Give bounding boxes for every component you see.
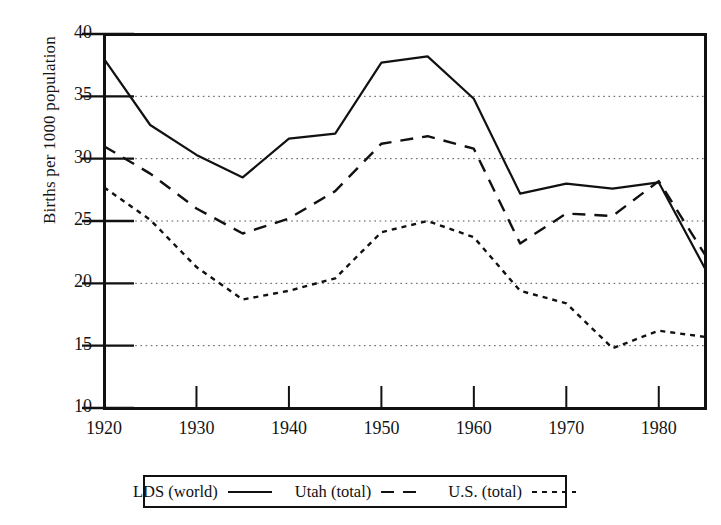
legend-label: LDS (world) <box>133 482 218 502</box>
plot-frame <box>105 35 706 409</box>
legend-entry: LDS (world) <box>122 482 284 502</box>
x-tick-label: 1940 <box>254 418 324 439</box>
legend-swatch-dotted <box>531 487 577 497</box>
y-tick-label: 35 <box>46 84 92 105</box>
y-tick-label: 20 <box>46 271 92 292</box>
series-line-u-s-total <box>104 187 705 348</box>
y-tick-label: 30 <box>46 147 92 168</box>
plot-area <box>0 0 721 525</box>
legend-entry: U.S. (total) <box>437 482 588 502</box>
x-tick-label: 1930 <box>161 418 231 439</box>
x-tick-label: 1980 <box>624 418 694 439</box>
data-series-group <box>104 56 705 348</box>
x-tick-label: 1920 <box>69 418 139 439</box>
chart-figure: Births per 1000 population 1015202530354… <box>0 0 721 525</box>
legend-label: Utah (total) <box>295 482 372 502</box>
legend-label: U.S. (total) <box>448 482 522 502</box>
y-tick-label: 40 <box>46 22 92 43</box>
gridlines <box>104 96 705 345</box>
legend-swatch-dashed <box>380 487 426 497</box>
y-tick-label: 10 <box>46 396 92 417</box>
y-tick-label: 25 <box>46 209 92 230</box>
legend-entry: Utah (total) <box>284 482 438 502</box>
series-line-lds-world <box>104 56 705 268</box>
chart-legend: LDS (world)Utah (total)U.S. (total) <box>143 475 567 508</box>
x-tick-marks <box>196 386 658 408</box>
x-tick-label: 1970 <box>531 418 601 439</box>
x-tick-label: 1950 <box>346 418 416 439</box>
y-tick-label: 15 <box>46 334 92 355</box>
x-tick-label: 1960 <box>439 418 509 439</box>
legend-swatch-solid <box>227 487 273 497</box>
